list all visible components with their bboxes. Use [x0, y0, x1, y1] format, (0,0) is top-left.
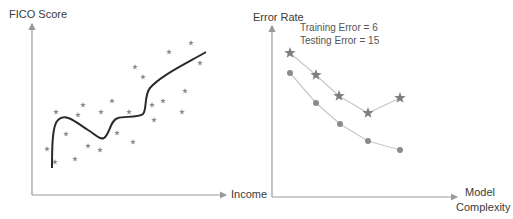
testing-error-line	[290, 53, 400, 113]
right-chart	[272, 26, 457, 197]
scatter-points	[44, 40, 203, 164]
charts-canvas	[0, 0, 513, 219]
right-x-axis-label-line2: Complexity	[456, 201, 510, 213]
right-y-axis-label: Error Rate	[253, 11, 304, 23]
left-chart	[32, 24, 226, 195]
training-error-annotation: Training Error = 6	[300, 22, 378, 33]
training-error-markers	[287, 70, 403, 153]
left-x-axis-label: Income	[231, 188, 267, 200]
left-y-axis-label: FICO Score	[9, 8, 67, 20]
right-x-axis-label-line1: Model	[465, 186, 495, 198]
testing-error-annotation: Testing Error = 15	[300, 35, 379, 46]
training-error-line	[290, 73, 400, 150]
testing-error-markers	[284, 47, 406, 118]
